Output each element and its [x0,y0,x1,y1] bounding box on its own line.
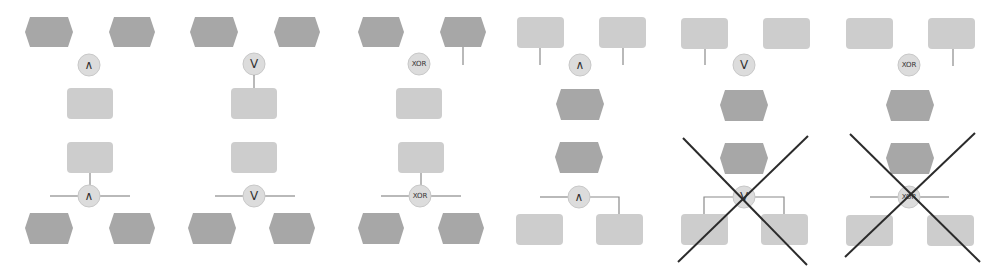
event-hexagon [886,143,934,174]
operator-label: ∧ [85,58,94,72]
event-hexagon [274,17,320,47]
operator-label: XOR [412,60,427,68]
function-rect [927,215,974,246]
event-hexagon [720,143,768,174]
function-rect [596,214,643,245]
operator-label: ∧ [85,189,94,203]
event-hexagon [188,213,236,244]
panel-6: XOR XOR [845,18,980,262]
panel-5: V V [678,18,810,265]
event-hexagon [886,90,934,121]
operator-label: V [740,58,749,72]
function-rect [681,18,728,49]
event-hexagon [358,213,404,244]
operator-label: ∧ [576,58,585,72]
event-hexagon [440,17,486,47]
function-rect [396,88,442,119]
function-rect [67,142,113,173]
panel-3: XOR XOR [358,17,486,244]
function-rect [398,142,444,173]
panel-1: ∧ ∧ [25,17,155,244]
function-rect [231,142,277,173]
event-hexagon [25,17,73,47]
function-rect [517,17,564,48]
event-hexagon [269,213,315,244]
function-rect [681,214,728,245]
function-rect [846,215,893,246]
event-hexagon [190,17,238,47]
panel-4: ∧ ∧ [516,17,646,245]
event-hexagon [109,17,155,47]
function-rect [599,17,646,48]
operator-label: XOR [902,61,917,69]
epc-connector-rules-diagram: ∧ ∧ V V XOR XOR [0,0,996,275]
panel-2: V V [188,17,320,244]
function-rect [516,214,563,245]
function-rect [928,18,975,49]
operator-label: V [250,189,259,203]
event-hexagon [556,89,604,120]
operator-label: XOR [413,192,428,200]
event-hexagon [25,213,73,244]
function-rect [846,18,893,49]
function-rect [761,214,808,245]
operator-label: V [250,57,259,71]
function-rect [67,88,113,119]
operator-label: ∧ [575,190,584,204]
event-hexagon [720,90,768,121]
event-hexagon [438,213,484,244]
event-hexagon [358,17,404,47]
event-hexagon [109,213,155,244]
event-hexagon [555,142,603,173]
function-rect [763,18,810,49]
function-rect [231,88,277,119]
